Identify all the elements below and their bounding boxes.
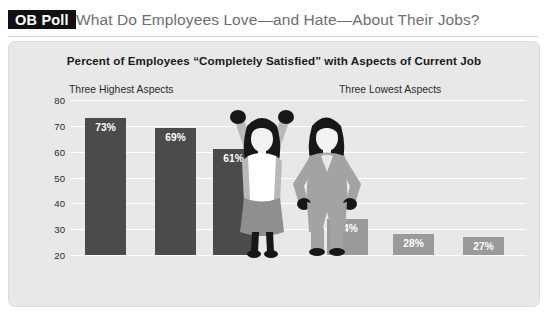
group-label-highest: Three Highest Aspects: [69, 84, 174, 95]
ob-poll-badge: OB Poll: [8, 10, 76, 29]
headline: What Do Employees Love—and Hate—About Th…: [76, 10, 480, 29]
bar-2: 69%: [155, 128, 196, 255]
header: OB Poll What Do Employees Love—and Hate—…: [0, 0, 546, 38]
y-axis-tick-label: 20: [54, 250, 65, 261]
bar-value-label: 69%: [155, 132, 196, 143]
bar-fill: [155, 128, 196, 255]
chart-title: Percent of Employees “Completely Satisfi…: [9, 54, 539, 67]
ob-poll-infographic: OB Poll What Do Employees Love—and Hate—…: [0, 0, 546, 321]
bar-fill: [85, 118, 126, 255]
bar-1: 73%: [85, 118, 126, 255]
bar-value-label: 73%: [85, 122, 126, 133]
bar-value-label: 27%: [463, 241, 504, 252]
bar-value-label: 28%: [393, 238, 434, 249]
bar-5: 28%: [393, 234, 434, 255]
y-axis-tick-label: 30: [54, 224, 65, 235]
y-axis-tick-label: 80: [54, 95, 65, 106]
bar-6: 27%: [463, 237, 504, 255]
chart-panel: Percent of Employees “Completely Satisfi…: [8, 41, 540, 307]
group-label-lowest: Three Lowest Aspects: [339, 84, 441, 95]
frustrated-woman-illustration: [281, 98, 373, 258]
y-axis-tick-label: 40: [54, 198, 65, 209]
y-axis-tick-label: 60: [54, 146, 65, 157]
header-divider: [8, 36, 538, 37]
y-axis-tick-label: 50: [54, 172, 65, 183]
y-axis-tick-label: 70: [54, 120, 65, 131]
